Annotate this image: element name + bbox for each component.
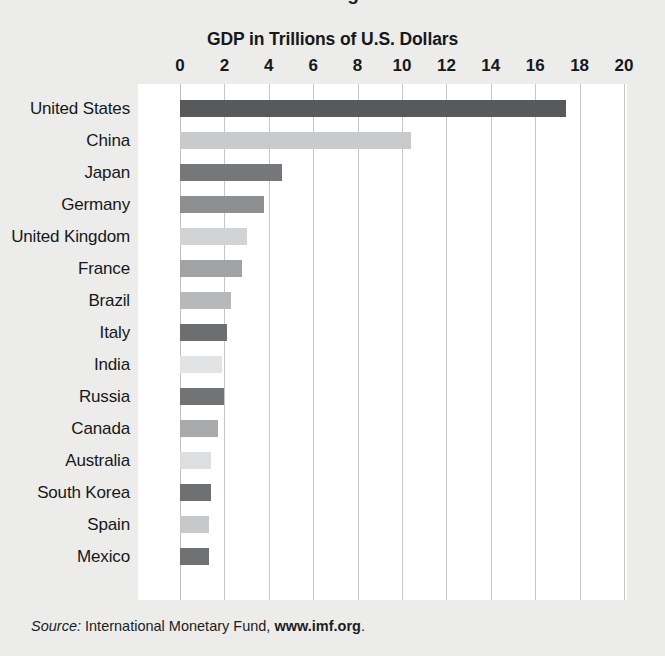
bar-south-korea[interactable] — [180, 484, 211, 501]
bar-russia[interactable] — [180, 388, 224, 405]
bar-mexico[interactable] — [180, 548, 209, 565]
x-tick-label-2: 2 — [204, 56, 244, 76]
x-tick-label-12: 12 — [426, 56, 466, 76]
category-label-united-kingdom: United Kingdom — [0, 227, 130, 247]
category-label-india: India — [0, 355, 130, 375]
category-label-japan: Japan — [0, 163, 130, 183]
x-tick-label-4: 4 — [249, 56, 289, 76]
bar-italy[interactable] — [180, 324, 227, 341]
clipped-chart-title: …at Exchange Rates — [0, 0, 665, 16]
gridline-20 — [624, 84, 625, 600]
gridline-10 — [402, 84, 403, 600]
x-tick-label-16: 16 — [515, 56, 555, 76]
gridline-14 — [491, 84, 492, 600]
x-tick-label-20: 20 — [604, 56, 644, 76]
category-label-china: China — [0, 131, 130, 151]
x-tick-label-14: 14 — [471, 56, 511, 76]
bar-canada[interactable] — [180, 420, 218, 437]
category-label-south-korea: South Korea — [0, 483, 130, 503]
bar-united-kingdom[interactable] — [180, 228, 247, 245]
bar-india[interactable] — [180, 356, 222, 373]
source-body: International Monetary Fund, — [85, 618, 270, 634]
category-label-united-states: United States — [0, 99, 130, 119]
bar-china[interactable] — [180, 132, 411, 149]
category-label-spain: Spain — [0, 515, 130, 535]
clipped-chart-title-text: …at Exchange Rates — [0, 0, 665, 5]
source-note: Source: International Monetary Fund, www… — [31, 618, 365, 634]
gridline-18 — [580, 84, 581, 600]
gridline-16 — [535, 84, 536, 600]
category-label-russia: Russia — [0, 387, 130, 407]
x-tick-label-10: 10 — [382, 56, 422, 76]
x-tick-label-8: 8 — [338, 56, 378, 76]
gridline-8 — [358, 84, 359, 600]
category-label-brazil: Brazil — [0, 291, 130, 311]
gridline-6 — [313, 84, 314, 600]
source-url: www.imf.org — [274, 618, 360, 634]
bar-france[interactable] — [180, 260, 242, 277]
source-label: Source: — [31, 618, 81, 634]
source-period: . — [361, 618, 365, 634]
gridline-4 — [269, 84, 270, 600]
bar-germany[interactable] — [180, 196, 264, 213]
bar-australia[interactable] — [180, 452, 211, 469]
category-label-mexico: Mexico — [0, 547, 130, 567]
category-label-canada: Canada — [0, 419, 130, 439]
bar-united-states[interactable] — [180, 100, 566, 117]
chart-axis-title: GDP in Trillions of U.S. Dollars — [0, 29, 665, 50]
x-tick-label-18: 18 — [560, 56, 600, 76]
gridline-12 — [446, 84, 447, 600]
bar-brazil[interactable] — [180, 292, 231, 309]
plot-area — [138, 84, 627, 600]
x-tick-label-0: 0 — [160, 56, 200, 76]
category-label-australia: Australia — [0, 451, 130, 471]
category-label-germany: Germany — [0, 195, 130, 215]
x-tick-label-6: 6 — [293, 56, 333, 76]
category-label-italy: Italy — [0, 323, 130, 343]
category-label-france: France — [0, 259, 130, 279]
bar-spain[interactable] — [180, 516, 209, 533]
gridline-2 — [224, 84, 225, 600]
bar-japan[interactable] — [180, 164, 282, 181]
